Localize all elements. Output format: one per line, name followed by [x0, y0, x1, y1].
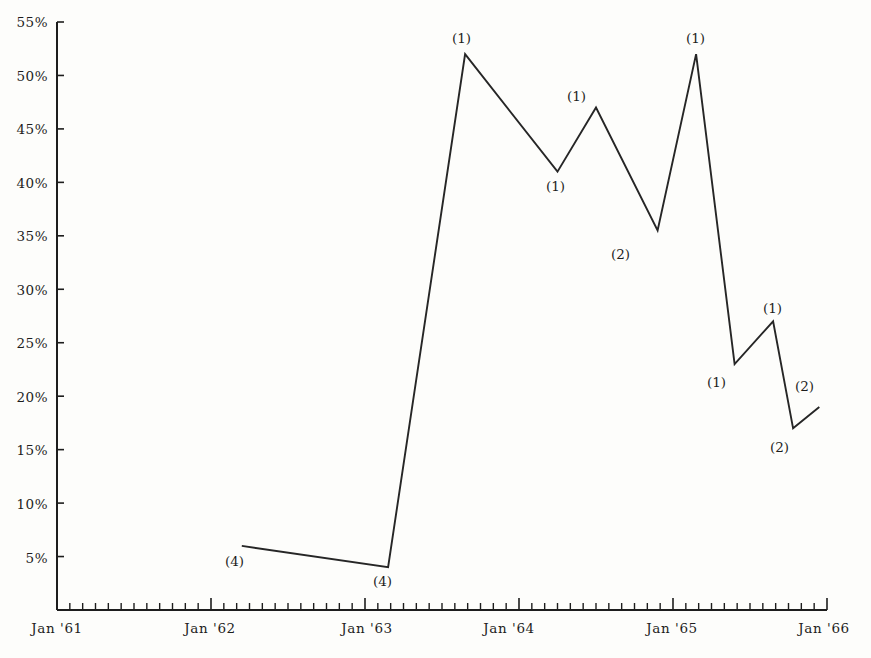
data-point-annotation: (2) — [770, 439, 789, 455]
x-axis-tick-label: Jan '66 — [779, 620, 869, 636]
data-point-annotation: (1) — [567, 88, 586, 104]
y-axis-tick-label: 10% — [0, 496, 48, 512]
x-axis-minor-ticks — [70, 603, 814, 610]
data-point-annotation: (1) — [546, 178, 565, 194]
y-axis-tick-label: 55% — [0, 14, 48, 30]
data-series-line — [242, 54, 820, 567]
y-axis-tick-label: 20% — [0, 389, 48, 405]
x-axis-tick-label: Jan '65 — [627, 620, 717, 636]
x-axis-tick-label: Jan '63 — [322, 620, 412, 636]
data-point-annotation: (4) — [373, 573, 392, 589]
y-axis-tick-label: 40% — [0, 175, 48, 191]
data-point-annotation: (2) — [795, 378, 814, 394]
line-chart: 55%50%45%40%35%30%25%20%15%10%5% Jan '61… — [0, 0, 871, 658]
data-point-annotation: (1) — [707, 374, 726, 390]
y-axis-tick-label: 25% — [0, 335, 48, 351]
y-axis-tick-label: 45% — [0, 121, 48, 137]
x-axis-tick-label: Jan '62 — [165, 620, 255, 636]
y-axis-tick-label: 30% — [0, 282, 48, 298]
data-point-annotation: (1) — [763, 300, 782, 316]
data-point-annotation: (2) — [611, 246, 630, 262]
y-axis-tick-label: 5% — [0, 550, 48, 566]
y-axis-tick-label: 15% — [0, 442, 48, 458]
y-axis-ticks — [57, 22, 64, 557]
x-axis-tick-label: Jan '61 — [12, 620, 102, 636]
data-point-annotation: (1) — [452, 30, 471, 46]
data-point-annotation: (1) — [686, 30, 705, 46]
chart-plot-area — [0, 0, 871, 658]
y-axis-tick-label: 35% — [0, 228, 48, 244]
data-point-annotation: (4) — [225, 553, 244, 569]
y-axis-tick-label: 50% — [0, 68, 48, 84]
x-axis-tick-label: Jan '64 — [464, 620, 554, 636]
